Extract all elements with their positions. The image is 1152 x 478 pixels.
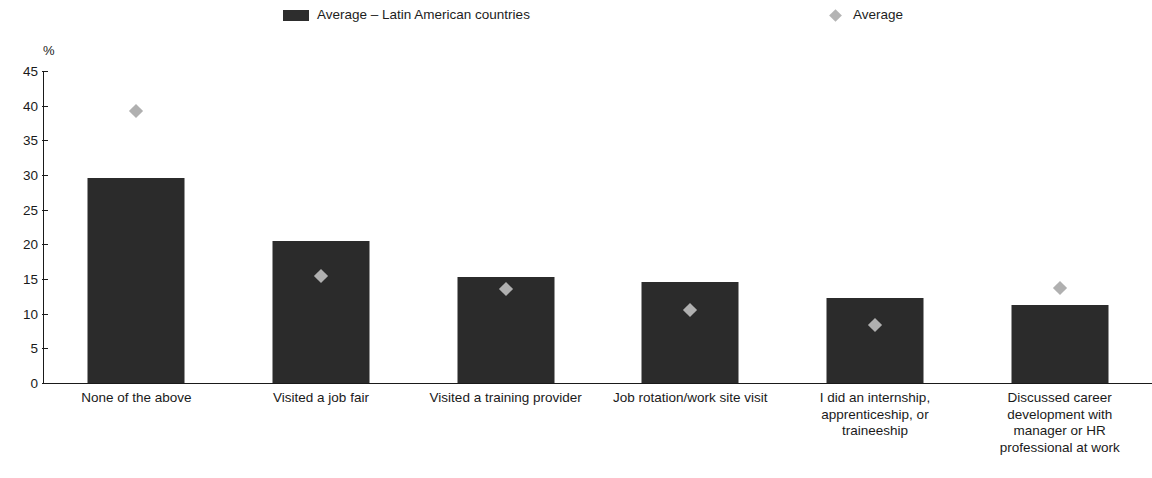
- x-axis-category-label-line: manager or HR: [967, 423, 1152, 440]
- y-axis-tick-mark: [42, 210, 48, 211]
- average-diamond-marker[interactable]: [1053, 281, 1067, 295]
- x-axis-category-label-line: development with: [967, 407, 1152, 424]
- y-axis-tick-label: 5: [6, 342, 38, 355]
- bar-group: [783, 71, 968, 383]
- bar[interactable]: [1011, 305, 1108, 383]
- y-axis-tick-mark: [42, 71, 48, 72]
- y-axis-tick-label: 15: [6, 273, 38, 286]
- y-axis-tick-label: 10: [6, 308, 38, 321]
- bar[interactable]: [642, 282, 739, 383]
- legend-label-marker-series: Average: [853, 7, 903, 23]
- x-axis-category-label: Discussed careerdevelopment withmanager …: [967, 390, 1152, 456]
- x-axis-category-label: I did an internship,apprenticeship, ortr…: [783, 390, 968, 440]
- x-axis-category-label: Visited a job fair: [229, 390, 414, 407]
- y-axis-unit-label: %: [43, 44, 55, 58]
- y-axis-tick-mark: [42, 244, 48, 245]
- bar-group: [967, 71, 1152, 383]
- bar[interactable]: [88, 178, 185, 383]
- legend-item-average-latin-american-countries: Average – Latin American countries: [283, 6, 530, 24]
- x-axis-labels: None of the aboveVisited a job fairVisit…: [44, 390, 1152, 478]
- plot-area: [43, 71, 1152, 383]
- y-axis-tick-label: 30: [6, 169, 38, 182]
- y-axis-tick-mark: [42, 279, 48, 280]
- bar-chart: Average – Latin American countries Avera…: [0, 0, 1152, 478]
- chart-legend: Average – Latin American countries Avera…: [0, 0, 1152, 30]
- x-axis-category-label-line: None of the above: [44, 390, 229, 407]
- x-axis-category-label-line: apprenticeship, or: [783, 407, 968, 424]
- x-axis-category-label-line: Discussed career: [967, 390, 1152, 407]
- x-axis-line: [43, 383, 1152, 384]
- bars-layer: [44, 71, 1152, 383]
- y-axis-tick-mark: [42, 314, 48, 315]
- y-axis-tick-mark: [42, 106, 48, 107]
- x-axis-category-label-line: Visited a job fair: [229, 390, 414, 407]
- y-axis-tick-mark: [42, 140, 48, 141]
- x-axis-category-label-line: I did an internship,: [783, 390, 968, 407]
- y-axis-tick-label: 45: [6, 65, 38, 78]
- y-axis-tick-label: 0: [6, 377, 38, 390]
- y-axis-tick-mark: [42, 175, 48, 176]
- legend-diamond-marker-icon: [829, 9, 842, 22]
- legend-bar-swatch-icon: [283, 10, 309, 21]
- x-axis-category-label-line: Visited a training provider: [413, 390, 598, 407]
- bar-group: [413, 71, 598, 383]
- average-diamond-marker[interactable]: [129, 103, 143, 117]
- x-axis-category-label-line: Job rotation/work site visit: [598, 390, 783, 407]
- bar[interactable]: [272, 241, 369, 383]
- x-axis-category-label-line: professional at work: [967, 440, 1152, 457]
- y-axis-tick-label: 35: [6, 134, 38, 147]
- bar-group: [229, 71, 414, 383]
- x-axis-category-label: Job rotation/work site visit: [598, 390, 783, 407]
- y-axis-tick-label: 40: [6, 100, 38, 113]
- y-axis-tick-label: 20: [6, 238, 38, 251]
- bar-group: [44, 71, 229, 383]
- x-axis-category-label: Visited a training provider: [413, 390, 598, 407]
- bar-group: [598, 71, 783, 383]
- y-axis-tick-mark: [42, 348, 48, 349]
- y-axis-tick-labels: 051015202530354045: [0, 71, 38, 383]
- x-axis-category-label-line: traineeship: [783, 423, 968, 440]
- legend-label-bar-series: Average – Latin American countries: [317, 7, 530, 23]
- y-axis-tick-label: 25: [6, 204, 38, 217]
- bar[interactable]: [826, 298, 923, 383]
- legend-item-average: Average: [828, 6, 903, 24]
- y-axis-tick-mark: [42, 383, 48, 384]
- x-axis-category-label: None of the above: [44, 390, 229, 407]
